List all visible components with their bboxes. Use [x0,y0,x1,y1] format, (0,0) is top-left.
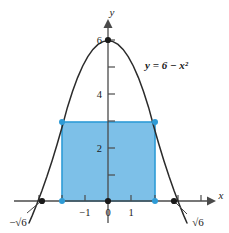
x-axis-label: x [218,189,224,201]
rect-corner-bottom-left-marker [59,198,65,204]
y-tick-label-2: 2 [97,143,102,154]
x-tick-label-neg1: −1 [79,207,90,218]
x-label-sqrt6: √6 [192,216,204,228]
x-tick-label-0: 0 [105,207,110,218]
origin-marker [105,198,111,204]
y-axis-arrowhead [104,19,113,28]
figure-canvas: y x y = 6 − x² 6 4 2 −1 0 1 −√6 √6 [0,0,229,233]
rect-corner-bottom-right-marker [152,198,158,204]
y-tick-label-6: 6 [97,35,102,46]
vertex-marker [105,37,111,43]
x-tick-label-1: 1 [128,207,133,218]
rect-corner-top-left-marker [59,119,65,125]
rect-corner-top-right-marker [152,119,158,125]
x-label-neg-sqrt6: −√6 [9,216,27,228]
sqrt6-marker [171,198,177,204]
parabola-rectangle-figure: y x y = 6 − x² 6 4 2 −1 0 1 −√6 √6 [0,0,229,233]
sqrt6-leader [176,203,187,214]
neg-sqrt6-marker [39,198,45,204]
equation-label: y = 6 − x² [143,59,189,71]
y-axis-label: y [109,6,115,18]
y-tick-label-4: 4 [97,89,103,100]
x-axis-arrowhead [207,197,216,206]
